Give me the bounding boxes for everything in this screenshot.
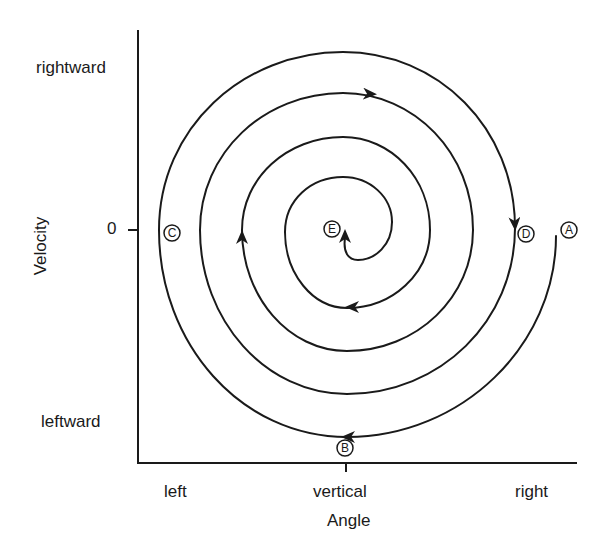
segment-b-to-c [159, 230, 347, 437]
segment-bottom2-left [200, 230, 347, 394]
x-tick-vertical-label: vertical [313, 482, 367, 502]
x-axis-title: Angle [327, 511, 370, 531]
segment-right3-bottom [347, 230, 430, 308]
y-tick-rightward: rightward [36, 58, 106, 78]
segment-left2-top [200, 93, 343, 230]
point-d-label: D [522, 227, 531, 241]
segment-d-down [347, 228, 515, 394]
x-tick-left: left [164, 482, 187, 502]
segment-a-to-b [347, 236, 556, 437]
point-b-label: B [341, 441, 349, 455]
segment-left3-top [242, 137, 343, 230]
segment-bottom4-left [285, 232, 347, 308]
point-markers [164, 221, 577, 456]
y-axis-title: Velocity [31, 213, 51, 279]
phase-diagram: A B C D E [0, 0, 610, 549]
axes [128, 30, 577, 472]
segment-top4-right [343, 177, 392, 222]
spiral-trajectory [159, 52, 556, 437]
point-a-label: A [565, 223, 573, 237]
x-tick-right: right [515, 482, 548, 502]
y-tick-zero-label: 0 [107, 219, 116, 239]
point-c-label: C [168, 226, 177, 240]
segment-top3-right [343, 137, 430, 230]
segment-top2-right [343, 93, 473, 230]
point-e-label: E [328, 222, 336, 236]
segment-final-curl [345, 222, 392, 260]
segment-right2-bottom [347, 230, 473, 351]
segment-bottom3-left [242, 230, 347, 351]
y-tick-leftward: leftward [41, 412, 101, 432]
segment-c-to-d [159, 52, 515, 230]
